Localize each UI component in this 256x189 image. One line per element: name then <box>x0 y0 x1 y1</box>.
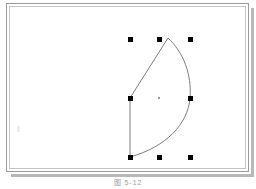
drawing-canvas[interactable] <box>0 0 256 189</box>
handle-top-center[interactable] <box>157 37 162 42</box>
leaf-petal-shape[interactable] <box>130 38 190 157</box>
handle-top-left[interactable] <box>128 37 133 42</box>
handle-middle-left[interactable] <box>128 96 133 101</box>
handle-bottom-left[interactable] <box>128 155 133 160</box>
handle-bottom-right[interactable] <box>188 155 193 160</box>
handle-top-right[interactable] <box>188 37 193 42</box>
screenshot-root: 图 5-12 <box>0 0 256 189</box>
figure-caption: 图 5-12 <box>0 179 256 187</box>
handle-middle-right[interactable] <box>188 96 193 101</box>
shape-center-marker <box>158 97 160 99</box>
handle-bottom-center[interactable] <box>157 155 162 160</box>
